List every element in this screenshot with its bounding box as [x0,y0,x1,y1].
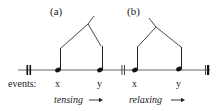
event-x-b: x [132,78,137,89]
event-x-b-note [131,47,138,73]
event-y-b: y [176,78,181,89]
tensing-arrow-icon [89,98,103,102]
panel-b-tree [138,18,182,47]
event-y-a: y [97,78,102,89]
end-barline [205,65,209,75]
relaxing-label: relaxing [129,94,162,105]
event-x-a: x [55,78,60,89]
event-y-a-note [96,46,103,73]
event-y-b-note [175,47,182,72]
events-tension-diagram: (a) (b) events: x y x y tensing relaxing [0,0,221,111]
panel-a-label: (a) [50,5,63,18]
panel-a-tree [61,16,101,48]
tensing-label: tensing [54,94,83,105]
panel-b-label: (b) [127,5,140,18]
relaxing-arrow-icon [171,98,185,102]
events-label: events: [8,78,36,89]
event-x-a-note [54,48,61,73]
